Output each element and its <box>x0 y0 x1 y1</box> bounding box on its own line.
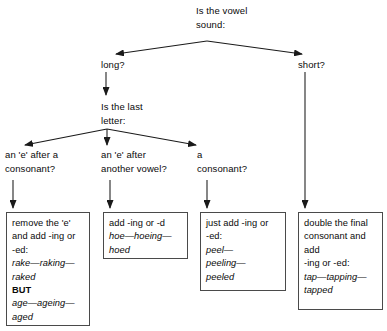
node-a-consonant: a consonant? <box>197 148 247 175</box>
outcome-box-remove-e: remove the 'e' and add -ing or -ed: rake… <box>6 212 90 326</box>
outcome-box-double-consonant: double the final consonant and add -ing … <box>298 212 383 310</box>
outcome-box-add-ing-or-d: add -ing or -d hoe—hoeing— hoed <box>103 212 188 259</box>
outcome-example-text: tap—tapping— tapped <box>304 271 377 298</box>
outcome-box-just-add: just add -ing or -ed: peel— peeling— pee… <box>200 212 286 291</box>
arrow-lastletter-to-e-consonant <box>25 129 107 145</box>
outcome-example-text: peel— peeling— peeled <box>206 244 280 284</box>
outcome-but-label: BUT <box>12 284 84 297</box>
node-is-the-last-letter: Is the last letter: <box>101 100 143 127</box>
node-e-after-another-vowel: an 'e' after another vowel? <box>101 148 167 175</box>
outcome-rule-text: add -ing or -d <box>109 217 182 230</box>
node-long: long? <box>101 58 125 72</box>
outcome-rule-text: just add -ing or -ed: <box>206 217 280 244</box>
outcome-example-exception-text: age—ageing— aged <box>12 297 84 324</box>
outcome-rule-text: double the final consonant and add -ing … <box>304 217 377 271</box>
flowchart-canvas: Is the vowel sound: long? short? Is the … <box>0 0 387 331</box>
arrow-lastletter-to-consonant <box>107 129 196 145</box>
arrow-root-to-long <box>116 41 207 54</box>
node-is-the-vowel-sound: Is the vowel sound: <box>196 4 247 31</box>
outcome-example-text: hoe—hoeing— hoed <box>109 230 182 257</box>
node-e-after-a-consonant: an 'e' after a consonant? <box>5 148 58 175</box>
node-short: short? <box>298 58 325 72</box>
arrow-root-to-short <box>207 41 302 54</box>
outcome-rule-text: remove the 'e' and add -ing or -ed: <box>12 217 84 257</box>
outcome-example-text: rake—raking— raked <box>12 257 84 284</box>
